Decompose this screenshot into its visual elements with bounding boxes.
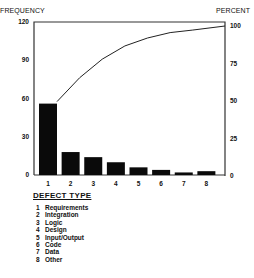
bar: [39, 104, 57, 175]
legend-item: 1Requirements: [36, 204, 88, 211]
legend-item-label: Logic: [45, 219, 62, 226]
legend-item: 6Code: [36, 241, 88, 248]
cumulative-percent-line: [57, 26, 225, 102]
legend-item-number: 4: [36, 226, 45, 233]
legend-item-label: Code: [45, 241, 61, 248]
legend-item-number: 2: [36, 211, 45, 218]
defect-type-legend: 1Requirements2Integration3Logic4Design5I…: [36, 204, 88, 263]
bar: [84, 157, 102, 175]
legend-item-number: 6: [36, 241, 45, 248]
bar: [175, 172, 193, 175]
legend-item-label: Other: [45, 256, 62, 263]
bar: [62, 152, 80, 175]
legend-item-number: 8: [36, 256, 45, 263]
legend-item-label: Integration: [45, 211, 79, 218]
legend-item: 2Integration: [36, 211, 88, 218]
legend-item-number: 3: [36, 219, 45, 226]
legend-item-label: Input/Output: [45, 234, 84, 241]
legend-item-label: Design: [45, 226, 67, 233]
legend-item-label: Data: [45, 248, 59, 255]
legend-item: 7Data: [36, 248, 88, 255]
legend-item: 4Design: [36, 226, 88, 233]
legend-item: 5Input/Output: [36, 234, 88, 241]
legend-item-number: 1: [36, 204, 45, 211]
legend-item-number: 5: [36, 234, 45, 241]
bar: [197, 171, 215, 175]
bar: [152, 170, 170, 175]
legend-item-number: 7: [36, 248, 45, 255]
bar: [130, 167, 148, 175]
legend-item: 3Logic: [36, 219, 88, 226]
legend-item: 8Other: [36, 256, 88, 263]
bar: [107, 162, 125, 175]
legend-title: DEFECT TYPE: [33, 191, 91, 200]
legend-item-label: Requirements: [45, 204, 88, 211]
